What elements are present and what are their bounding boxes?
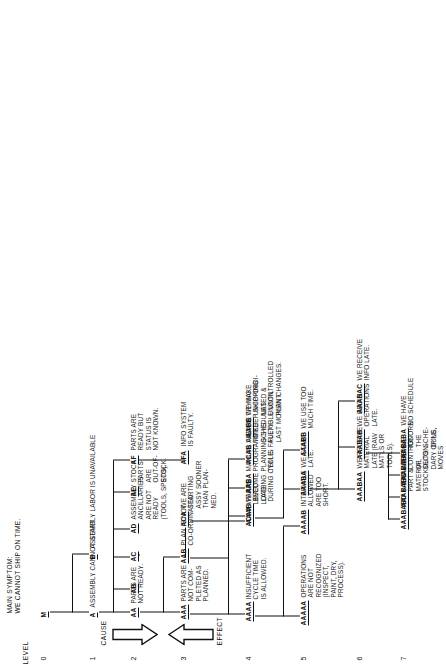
connector-AAA-to-AAAA: [228, 613, 245, 614]
connector-AAAA-to-AAAAB: [283, 525, 300, 526]
node-code-ACAA[interactable]: ACAA: [245, 506, 254, 526]
connector-AAABA-to-AAABAB: [338, 446, 355, 447]
connector-AAABA-to-AAABAC: [338, 400, 355, 401]
node-text-AFA: INFO SYSTEM IS FAULTY.: [180, 384, 195, 446]
connector-AA-to-AAA: [163, 611, 180, 612]
node-code-AC[interactable]: AC: [130, 551, 139, 561]
node-code-AA[interactable]: AA: [130, 607, 139, 617]
node-text-B: ASSEMBLY LABOR IS UNAVAILABLE: [89, 408, 96, 548]
level-number-6: 6: [356, 653, 363, 663]
connector-AAABA-bus: [338, 401, 339, 489]
node-code-ACAB[interactable]: ACAB: [245, 444, 254, 464]
connector-AAABAB-bus: [388, 453, 389, 519]
connector-A-to-AE: [113, 491, 130, 492]
node-code-AAABAA[interactable]: AAABAA: [356, 471, 365, 501]
connector-M-bus: [72, 554, 73, 612]
level-number-1: 1: [89, 653, 96, 663]
node-code-AE[interactable]: AE: [130, 486, 139, 496]
connector-AAABAB-stem: [366, 452, 388, 453]
connector-M-to-B: [72, 553, 89, 554]
diagram-frame: MAIN SYMPTOM: WE CANNOT SHIP ON TIME. LE…: [0, 0, 446, 669]
node-code-AAAAA[interactable]: AAAAA: [300, 600, 309, 625]
connector-AAAA-stem: [255, 615, 283, 616]
connector-A-stem: [99, 611, 113, 612]
connector-ACA-to-ACAA: [228, 520, 245, 521]
node-code-A[interactable]: A: [89, 612, 98, 617]
level-number-3: 3: [180, 653, 187, 663]
node-code-AAABA[interactable]: AAABA: [300, 470, 309, 495]
connector-AAA-stem: [190, 613, 228, 614]
node-code-AD[interactable]: AD: [130, 523, 139, 533]
connector-AC-run: [139, 554, 140, 555]
level-axis-label: LEVEL: [22, 640, 29, 664]
connector-A-to-AD: [113, 528, 130, 529]
connector-AA-stem: [140, 611, 163, 612]
node-text-ACAB: WE ARE TRYING TO KEEP SHIPPING SCHEDULES…: [245, 366, 282, 442]
main-symptom-title: MAIN SYMPTOM: WE CANNOT SHIP ON TIME.: [6, 518, 22, 613]
connector-AAAB-bus: [283, 450, 284, 518]
connector-ACA-bus: [228, 459, 229, 521]
node-text-AAABB: WE USE TOO MUCH TIME.: [300, 370, 315, 428]
connector-AAABA-to-AAABAA: [338, 488, 355, 489]
connector-AAABAB-to-B: [388, 474, 400, 475]
connector-AF-AFA-drop: [140, 459, 185, 460]
connector-AAABA-stem: [310, 488, 338, 489]
effect-arrow-icon: [168, 623, 218, 645]
level-number-0: 0: [40, 653, 47, 663]
level-number-7: 7: [400, 653, 407, 663]
cause-arrow-label: CAUSE: [100, 620, 107, 645]
connector-AAABAB-to-C: [388, 496, 400, 497]
level-number-5: 5: [300, 653, 307, 663]
node-code-AAABAB[interactable]: AAABAB: [356, 429, 365, 459]
connector-ACA-stem: [190, 520, 228, 521]
node-text-AAABABD: WE HAVE PART & MATERIAL STOCKOUTS: [400, 443, 430, 491]
connector-AA-bus: [163, 557, 164, 612]
connector-M-stem: [50, 611, 72, 612]
node-code-AAAAB[interactable]: AAAAB: [300, 509, 309, 534]
connector-AAB-stem: [190, 557, 228, 558]
connector-A-to-AF: [113, 459, 130, 460]
level-number-4: 4: [245, 653, 252, 663]
node-text-AAAA: INSUFFICIENT CYCLE TIME IS ALLOWED.: [245, 535, 267, 599]
connector-A-to-AA: [113, 611, 130, 612]
connector-AC-ACA-line: [185, 527, 186, 557]
node-code-AAABAC[interactable]: AAABAC: [356, 383, 365, 413]
node-code-AF[interactable]: AF: [130, 455, 139, 464]
connector-AA-to-AAB: [163, 556, 180, 557]
connector-AAA-to-AAAB: [228, 515, 245, 516]
connector-A-to-AC: [113, 556, 130, 557]
cause-arrow-icon: [112, 623, 162, 645]
node-text-AAABAC: WE RECEIVE INFO LATE.: [356, 326, 371, 380]
node-text-AAAAA: OPERATIONS ARE NOT RECOGNIZED (INSPECT, …: [300, 539, 344, 597]
node-code-B[interactable]: B: [89, 554, 98, 559]
node-code-ACA[interactable]: ACA: [180, 511, 189, 526]
diagram-canvas: MAIN SYMPTOM: WE CANNOT SHIP ON TIME. LE…: [0, 0, 446, 669]
connector-AAAA-to-AAAAA: [283, 615, 300, 616]
connector-ACA-to-ACAB: [228, 458, 245, 459]
connector-AAAB-to-AAABA: [283, 488, 300, 489]
node-code-AB[interactable]: AB: [130, 583, 139, 593]
connector-AAAB-to-AAABB: [283, 449, 300, 450]
node-code-AFA[interactable]: AFA: [180, 450, 189, 464]
node-code-AAABABD[interactable]: AAABABD: [400, 494, 409, 529]
connector-AAB-to-AABA: [228, 487, 245, 488]
node-code-AAAA[interactable]: AAAA: [245, 601, 254, 621]
connector-AAAA-bus: [283, 526, 284, 616]
effect-arrow-label: EFFECT: [216, 616, 223, 645]
level-number-2: 2: [130, 653, 137, 663]
connector-AAABAB-to-A: [388, 452, 400, 453]
connector-AAAB-stem: [255, 517, 283, 518]
node-code-AAA[interactable]: AAA: [180, 604, 189, 619]
node-text-AF: PARTS ARE READY BUT STATUS IS NOT KNOWN.: [130, 388, 160, 450]
connector-M-to-A: [72, 611, 89, 612]
node-code-AAABB[interactable]: AAABB: [300, 431, 309, 456]
node-code-M[interactable]: M: [40, 611, 49, 617]
connector-AAABAB-to-D: [388, 518, 400, 519]
connector-A-to-AB: [113, 588, 130, 589]
